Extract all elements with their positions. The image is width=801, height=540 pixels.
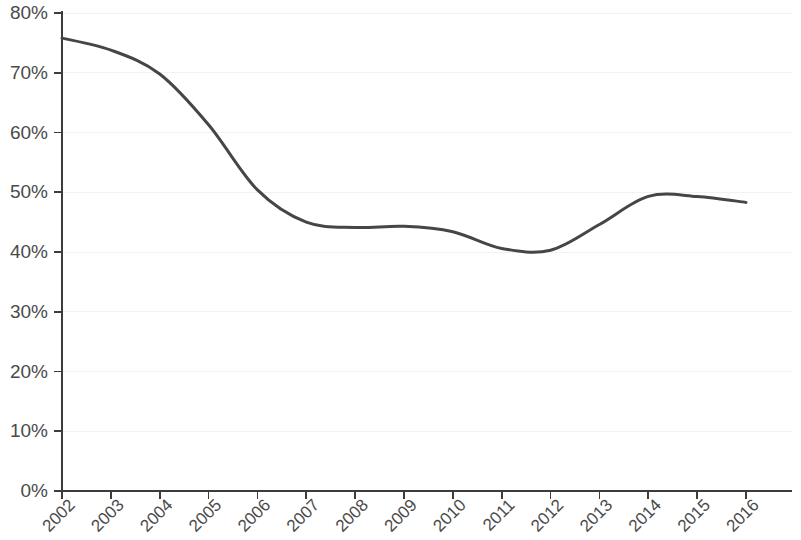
x-axis-tick-label: 2006 [234, 495, 274, 535]
x-axis-tick-label: 2012 [527, 495, 567, 535]
x-axis-tick-label: 2010 [430, 495, 470, 535]
gridlines [62, 13, 792, 431]
line-chart: 0%10%20%30%40%50%60%70%80% 2002200320042… [0, 0, 801, 540]
chart-canvas: 0%10%20%30%40%50%60%70%80% 2002200320042… [0, 0, 801, 540]
x-axis-tick-label: 2005 [185, 495, 225, 535]
y-axis-tick-label: 70% [10, 62, 48, 83]
x-axis-tick-label: 2002 [39, 495, 79, 535]
y-axis-tick-label: 60% [10, 122, 48, 143]
x-axis-tick-label: 2004 [136, 495, 176, 535]
x-axis-tick-label: 2009 [381, 495, 421, 535]
y-axis-tick-labels: 0%10%20%30%40%50%60%70%80% [10, 2, 48, 501]
x-axis-tick-label: 2003 [88, 495, 128, 535]
x-axis-tick-labels: 2002200320042005200620072008200920102011… [39, 495, 763, 535]
x-axis-tick-label: 2016 [723, 495, 763, 535]
data-series-line [62, 38, 746, 252]
x-axis-tick-label: 2014 [625, 495, 665, 535]
x-axis-tick-label: 2011 [479, 495, 518, 534]
y-axis-tick-label: 10% [10, 420, 48, 441]
x-axis-tick-label: 2007 [283, 495, 323, 535]
y-axis-tick-label: 80% [10, 2, 48, 23]
y-axis-tick-label: 30% [10, 301, 48, 322]
x-axis-tick-label: 2015 [674, 495, 714, 535]
x-axis-tick-label: 2013 [576, 495, 616, 535]
y-axis-tick-label: 40% [10, 241, 48, 262]
y-axis-tick-label: 20% [10, 361, 48, 382]
y-axis-tick-label: 50% [10, 181, 48, 202]
y-axis-tick-marks [54, 13, 62, 491]
x-axis-tick-label: 2008 [332, 495, 372, 535]
y-axis-tick-label: 0% [21, 480, 49, 501]
